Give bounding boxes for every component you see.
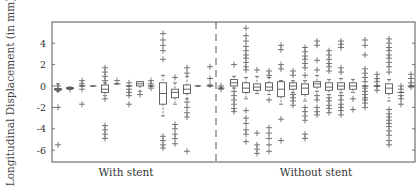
outlier-plus-marker <box>172 126 178 132</box>
y-tick-label: -4 <box>37 123 46 134</box>
outlier-plus-marker <box>160 48 166 54</box>
outlier-plus-marker <box>362 42 368 48</box>
box-column <box>55 83 62 148</box>
box-iqr <box>386 84 393 94</box>
box-column <box>254 67 261 156</box>
box-column <box>290 68 297 108</box>
box-iqr <box>302 84 309 95</box>
outlier-plus-marker <box>79 86 85 92</box>
outlier-plus-marker <box>362 79 368 85</box>
outlier-plus-marker <box>184 114 190 120</box>
outlier-plus-marker <box>160 37 166 43</box>
outlier-plus-marker <box>55 104 61 110</box>
box-column <box>314 38 321 118</box>
box-iqr <box>243 83 250 93</box>
outlier-plus-marker <box>243 33 249 39</box>
group-label-with-stent: With stent <box>98 166 153 178</box>
outlier-plus-marker <box>314 112 320 118</box>
outlier-plus-marker <box>243 108 249 114</box>
box-column <box>184 65 191 154</box>
outlier-plus-marker <box>398 86 404 92</box>
outlier-plus-marker <box>290 72 296 78</box>
group-label-without-stent: Without stent <box>280 166 352 178</box>
outlier-plus-marker <box>243 115 249 121</box>
outlier-plus-marker <box>338 44 344 50</box>
box-column <box>326 48 333 116</box>
outlier-plus-marker <box>102 78 108 84</box>
box-column <box>231 62 238 115</box>
outlier-plus-marker <box>386 132 392 138</box>
outlier-plus-marker <box>326 110 332 116</box>
box-column <box>362 37 369 110</box>
outlier-plus-marker <box>278 138 284 144</box>
outlier-plus-marker <box>362 52 368 58</box>
outlier-plus-marker <box>55 142 61 148</box>
box-column <box>218 83 225 92</box>
outlier-plus-marker <box>160 31 166 37</box>
outlier-plus-marker <box>243 120 249 126</box>
outlier-plus-marker <box>362 104 368 110</box>
y-tick-label: 0 <box>40 81 46 92</box>
y-tick-label: 4 <box>40 38 46 49</box>
outlier-plus-marker <box>243 131 249 137</box>
y-axis-ticks: 420-2-4-6 <box>37 38 415 156</box>
outlier-plus-marker <box>184 104 190 110</box>
box-plot-chart: 420-2-4-6 <box>0 0 420 187</box>
outlier-plus-marker <box>218 86 224 92</box>
outlier-plus-marker <box>266 125 272 131</box>
outlier-plus-marker <box>314 57 320 63</box>
outlier-plus-marker <box>254 150 260 156</box>
outlier-plus-marker <box>386 142 392 148</box>
box-iqr <box>172 89 179 98</box>
box-column <box>207 64 214 88</box>
boxes <box>55 25 415 156</box>
outlier-plus-marker <box>172 141 178 147</box>
outlier-plus-marker <box>338 69 344 75</box>
box-column <box>266 68 273 154</box>
box-column <box>160 31 167 151</box>
outlier-plus-marker <box>266 130 272 136</box>
box-column <box>114 78 121 84</box>
box-iqr <box>326 83 333 90</box>
box-iqr <box>314 82 321 87</box>
box-column <box>278 42 285 143</box>
y-axis-label: Longitudinal Displacement (in mm) <box>4 0 16 186</box>
outlier-plus-marker <box>243 67 249 73</box>
box-column <box>374 71 381 93</box>
outlier-plus-marker <box>207 64 213 70</box>
outlier-plus-marker <box>266 142 272 148</box>
outlier-plus-marker <box>302 135 308 141</box>
outlier-plus-marker <box>302 117 308 123</box>
outlier-plus-marker <box>55 87 61 93</box>
outlier-plus-marker <box>314 67 320 73</box>
outlier-plus-marker <box>350 96 356 102</box>
outlier-plus-marker <box>314 97 320 103</box>
box-column <box>338 38 345 118</box>
outlier-plus-marker <box>314 42 320 48</box>
box-iqr <box>266 83 273 90</box>
outlier-plus-marker <box>243 25 249 31</box>
outlier-plus-marker <box>254 67 260 73</box>
outlier-plus-marker <box>302 72 308 78</box>
outlier-plus-marker <box>266 135 272 141</box>
y-tick-label: -2 <box>37 102 46 113</box>
outlier-plus-marker <box>160 42 166 48</box>
box-column <box>102 65 109 142</box>
outlier-plus-marker <box>266 97 272 103</box>
box-column <box>408 71 415 90</box>
outlier-plus-marker <box>207 76 213 82</box>
outlier-plus-marker <box>79 101 85 107</box>
outlier-plus-marker <box>231 62 237 68</box>
outlier-plus-marker <box>184 148 190 154</box>
outlier-plus-marker <box>338 112 344 118</box>
box-column <box>126 80 133 107</box>
box-iqr <box>102 85 109 92</box>
box-column <box>398 83 405 107</box>
outlier-plus-marker <box>326 68 332 74</box>
outlier-plus-marker <box>126 101 132 107</box>
outlier-plus-marker <box>386 64 392 70</box>
y-tick-label: -6 <box>37 145 46 156</box>
outlier-plus-marker <box>184 65 190 71</box>
box-column <box>350 80 357 113</box>
outlier-plus-marker <box>362 37 368 43</box>
